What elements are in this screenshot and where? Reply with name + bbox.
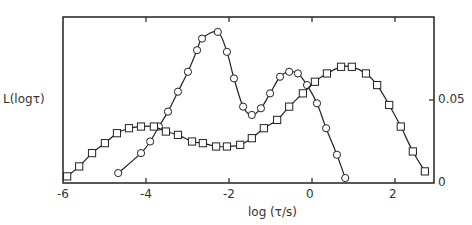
circle-marker [230,75,237,82]
circle-marker [164,108,171,115]
axis-ticks [146,17,434,183]
square-marker [174,131,181,138]
circle-marker [266,90,273,97]
square-marker [237,141,244,148]
square-marker [374,81,381,88]
square-marker [162,128,169,135]
square-marker [199,140,206,147]
y-tick-label: 0.05 [438,92,465,106]
circle-marker [313,100,320,107]
square-marker [337,63,344,70]
square-marker [137,123,144,130]
circles-curve [118,31,345,178]
x-tick-label: -6 [57,187,69,201]
circle-marker [137,150,144,157]
circle-marker [333,151,340,158]
circle-marker [115,169,122,176]
square-marker [311,78,318,85]
square-marker [125,125,132,132]
plot-frame [63,17,434,183]
square-marker [150,123,157,130]
square-marker [88,150,95,157]
square-marker [386,101,393,108]
square-marker [286,103,293,110]
x-tick-label: -2 [223,187,235,201]
circle-marker [303,81,310,88]
square-marker [397,123,404,130]
square-marker [64,173,71,180]
square-marker [113,130,120,137]
squares-curve [67,66,425,176]
circle-marker [323,125,330,132]
square-marker [323,70,330,77]
circle-marker [184,68,191,75]
square-marker [76,163,83,170]
square-marker [213,143,220,150]
square-marker [260,125,267,132]
circle-marker [248,111,255,118]
circle-marker [174,88,181,95]
y-axis-label: L(logτ) [3,92,45,106]
circle-marker [147,138,154,145]
circle-marker [198,35,205,42]
square-marker [188,138,195,145]
square-marker [362,70,369,77]
y-tick-label: 0 [438,175,446,189]
square-marker [421,168,428,175]
chart-canvas [0,0,472,225]
square-marker [101,140,108,147]
x-tick-label: 0 [306,187,314,201]
square-marker [223,143,230,150]
square-marker [409,148,416,155]
circle-marker [276,73,283,80]
circle-marker [240,103,247,110]
circle-marker [223,48,230,55]
square-marker [274,116,281,123]
circle-marker [257,105,264,112]
circle-marker [286,68,293,75]
square-marker [299,90,306,97]
square-marker [248,135,255,142]
circle-marker [214,28,221,35]
x-tick-label: 2 [389,187,397,201]
x-axis-label: log (τ/s) [248,205,297,219]
circle-marker [294,70,301,77]
circle-marker [342,174,349,181]
data-series [64,28,429,181]
circle-marker [193,47,200,54]
square-marker [348,63,355,70]
x-tick-label: -4 [140,187,152,201]
